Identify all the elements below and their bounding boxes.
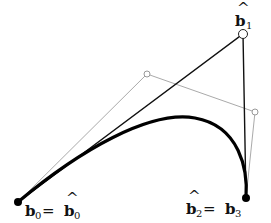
svg-text:0: 0 bbox=[74, 210, 80, 221]
endpoint-b0 bbox=[14, 198, 22, 206]
endpoint-b3 bbox=[242, 194, 250, 202]
svg-text:2: 2 bbox=[196, 208, 202, 219]
bezier-diagram: b 1 ^ b 0 = b 0 ^ b 2 ^ = b 3 bbox=[0, 0, 271, 223]
svg-text:=: = bbox=[42, 202, 55, 220]
svg-text:b: b bbox=[25, 202, 36, 220]
diagram-canvas: b 1 ^ b 0 = b 0 ^ b 2 ^ = b 3 bbox=[0, 0, 271, 223]
svg-text:^: ^ bbox=[188, 187, 201, 205]
svg-text:b: b bbox=[225, 200, 236, 218]
svg-text:1: 1 bbox=[246, 20, 252, 31]
svg-text:=: = bbox=[203, 200, 216, 218]
svg-text:3: 3 bbox=[235, 208, 241, 219]
svg-text:^: ^ bbox=[66, 189, 79, 207]
svg-text:^: ^ bbox=[237, 0, 250, 17]
gray-control-point-1 bbox=[144, 71, 150, 77]
gray-control-polygon bbox=[18, 74, 255, 202]
svg-text:0: 0 bbox=[35, 210, 41, 221]
label-b0-eq: b 0 = b 0 ^ bbox=[25, 189, 80, 221]
label-b1-hat: b 1 ^ bbox=[235, 0, 252, 31]
label-b2-eq: b 2 ^ = b 3 bbox=[186, 187, 241, 219]
bezier-curve bbox=[18, 117, 246, 202]
gray-control-point-2 bbox=[252, 109, 258, 115]
